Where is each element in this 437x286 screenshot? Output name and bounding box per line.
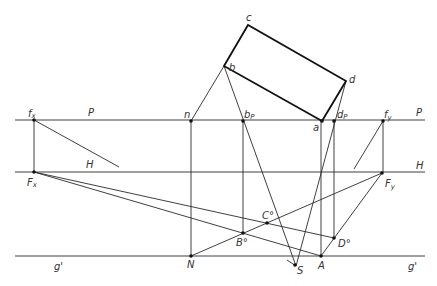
point-A: [319, 254, 323, 258]
b-S-line: [224, 66, 296, 266]
b-n-line: [191, 66, 224, 121]
point-D0: [332, 236, 336, 240]
label-g-left: g': [54, 261, 63, 272]
label-c: c: [246, 12, 252, 23]
label-H-left: H: [86, 159, 94, 170]
label-bP: bP: [244, 109, 255, 121]
Fx-D0-line: [34, 172, 334, 238]
label-g-right: g': [408, 261, 417, 272]
label-n: n: [184, 109, 190, 120]
point-B0: [241, 231, 245, 235]
Fx-A-line: [34, 172, 321, 256]
point-Fx: [32, 170, 36, 174]
label-D0: D°: [338, 238, 351, 249]
label-B0: B°: [236, 237, 248, 248]
fy-direction-line: [354, 121, 383, 169]
label-N: N: [187, 259, 195, 270]
point-N: [189, 254, 193, 258]
plan-rectangle-abcd: [224, 25, 346, 121]
label-C0: C°: [262, 210, 274, 221]
A-Fy-line: [321, 173, 382, 256]
point-a: [320, 119, 324, 123]
N-Fy-line: [191, 173, 382, 256]
fx-direction-line: [34, 120, 119, 167]
label-A: A: [317, 260, 325, 271]
perspective-diagram: P P H H g' g' fx Fx n N bP a dP fy Fy b …: [0, 0, 437, 286]
label-d: d: [349, 74, 356, 85]
label-b: b: [229, 62, 235, 73]
label-fx: fx: [28, 108, 37, 120]
label-dP: dP: [337, 109, 348, 121]
point-dP: [332, 119, 336, 123]
label-S: S: [297, 265, 304, 276]
point-Fy: [380, 171, 384, 175]
point-C0: [265, 221, 269, 225]
label-P-right: P: [416, 107, 423, 118]
label-P-left: P: [88, 107, 95, 118]
label-H-right: H: [416, 160, 424, 171]
label-Fy: Fy: [385, 178, 396, 191]
label-Fx: Fx: [27, 177, 38, 189]
label-a: a: [313, 122, 319, 133]
